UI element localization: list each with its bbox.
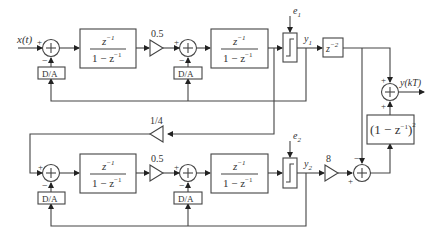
sign-plus: +	[174, 37, 179, 47]
sign-minus: −	[42, 55, 48, 66]
sign-plus: +	[381, 75, 386, 85]
y1-label: y1	[303, 33, 312, 47]
gain-triangle-quarter	[150, 126, 163, 142]
input-label: x(t)	[16, 33, 33, 46]
sign-plus: +	[38, 162, 43, 172]
dac-label: D/A	[178, 194, 194, 204]
gain-triangle-8	[325, 165, 338, 181]
sign-plus: +	[37, 37, 42, 47]
gain-8-label: 8	[326, 153, 331, 164]
dac-label: D/A	[42, 69, 58, 79]
sigma-delta-mash-diagram: x(t) + − z−1 1 − z−1 0.5 + − z−1 1 − z−1	[0, 0, 448, 240]
noise-label-e1: e1	[293, 5, 301, 19]
stage-1: x(t) + − z−1 1 − z−1 0.5 + − z−1 1 − z−1	[16, 5, 390, 134]
sign-plus: +	[174, 162, 179, 172]
noise-cancellation: − + (1 − z−1)2 + + y(kT)	[348, 48, 424, 186]
noise-label-e2: e2	[293, 130, 301, 144]
y2-label: y2	[303, 158, 312, 172]
dac-label: D/A	[42, 194, 58, 204]
stage-2: + − z−1 1 − z−1 0.5 + − z−1 1 − z−1 e2 y…	[38, 130, 352, 226]
gain-triangle-1	[150, 40, 163, 56]
filter-label: (1 − z−1)2	[370, 121, 416, 137]
output-label: y(kT)	[399, 77, 422, 89]
wire	[371, 144, 390, 173]
gain-label: 0.5	[151, 153, 164, 164]
sign-minus: −	[179, 180, 185, 191]
sign-plus: +	[381, 101, 386, 111]
dac-label: D/A	[178, 69, 194, 79]
sign-minus: −	[42, 180, 48, 191]
gain-triangle-2	[150, 165, 163, 181]
gain-label: 0.5	[151, 28, 164, 39]
coupling-gain-label: 1/4	[150, 115, 163, 126]
sign-minus: −	[179, 55, 185, 66]
sign-minus: −	[354, 153, 360, 164]
sign-plus: +	[348, 176, 353, 186]
